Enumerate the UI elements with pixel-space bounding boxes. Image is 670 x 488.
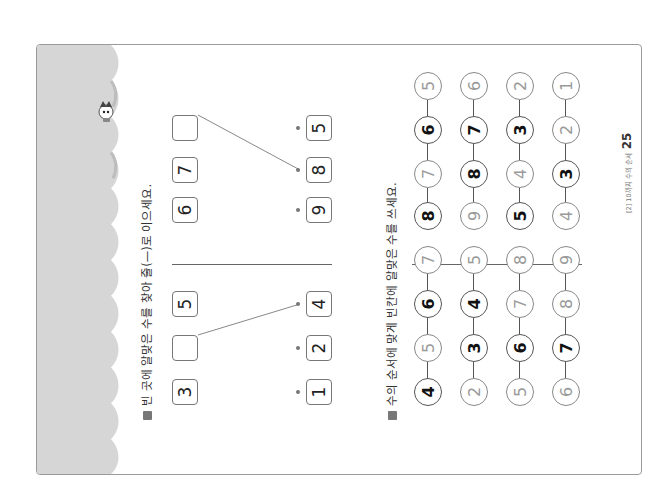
question-2-title: 수의 순서에 맞게 빈칸에 알맞은 수를 쓰세요.	[383, 182, 399, 420]
chain-link	[565, 188, 566, 202]
given-number-circle: 3	[506, 116, 534, 144]
connect-dot[interactable]	[296, 126, 300, 130]
group-separator	[172, 264, 332, 265]
number-box-top: 5	[172, 291, 198, 317]
chain-link	[565, 362, 566, 378]
number-box-bottom: 1	[306, 379, 332, 405]
chain-link	[519, 274, 520, 290]
given-number-circle: 6	[414, 290, 442, 318]
given-number-circle: 3	[460, 334, 488, 362]
answer-number-circle[interactable]: 7	[414, 160, 442, 188]
answer-number-circle[interactable]: 7	[414, 246, 442, 274]
answer-number-circle[interactable]: 9	[460, 202, 488, 230]
chain-link	[427, 100, 428, 116]
given-number-circle: 7	[552, 334, 580, 362]
connection-line-left	[198, 304, 300, 335]
answer-number-circle[interactable]: 4	[506, 160, 534, 188]
answer-number-circle[interactable]: 5	[414, 72, 442, 100]
connect-dot[interactable]	[296, 168, 300, 172]
page-number: 25	[620, 133, 634, 150]
chain-link	[427, 274, 428, 290]
given-number-circle: 3	[552, 160, 580, 188]
given-number-circle: 7	[460, 116, 488, 144]
number-box-bottom: 5	[306, 115, 332, 141]
worksheet-content: 빈 곳에 알맞은 수를 찾아 줄(—)로 이으세요. 3 5 6 7 1 2 4…	[36, 44, 642, 475]
chain-link	[565, 318, 566, 334]
chain-link	[473, 144, 474, 160]
answer-number-circle[interactable]: 2	[460, 378, 488, 406]
chain-link	[427, 362, 428, 378]
given-number-circle: 4	[414, 378, 442, 406]
chapter-label: [2] 10까지 수의 순서	[625, 153, 633, 213]
connect-dot[interactable]	[296, 302, 300, 306]
chain-link	[519, 362, 520, 378]
chain-link	[473, 274, 474, 290]
given-number-circle: 6	[414, 116, 442, 144]
page-footer: [2] 10까지 수의 순서25	[620, 133, 634, 213]
connect-dot[interactable]	[296, 346, 300, 350]
connect-dot[interactable]	[296, 208, 300, 212]
chain-link	[565, 100, 566, 116]
number-box-bottom: 2	[306, 335, 332, 361]
chain-link	[519, 144, 520, 160]
answer-number-circle[interactable]: 8	[506, 246, 534, 274]
answer-number-circle[interactable]: 5	[460, 246, 488, 274]
given-number-circle: 6	[506, 334, 534, 362]
chain-link	[519, 318, 520, 334]
given-number-circle: 8	[460, 160, 488, 188]
number-box-bottom: 9	[306, 197, 332, 223]
answer-number-circle[interactable]: 6	[552, 378, 580, 406]
given-number-circle: 5	[506, 202, 534, 230]
answer-number-circle[interactable]: 6	[460, 72, 488, 100]
chain-link	[519, 100, 520, 116]
chain-link	[427, 318, 428, 334]
given-number-circle: 4	[460, 290, 488, 318]
number-box-bottom: 4	[306, 291, 332, 317]
answer-number-circle[interactable]: 4	[552, 202, 580, 230]
connect-dot[interactable]	[296, 390, 300, 394]
answer-number-circle[interactable]: 7	[506, 290, 534, 318]
answer-number-circle[interactable]: 5	[506, 378, 534, 406]
blank-box-top[interactable]	[172, 335, 198, 361]
number-box-bottom: 8	[306, 157, 332, 183]
chain-link	[473, 100, 474, 116]
chain-link	[473, 362, 474, 378]
connection-line-right	[198, 115, 300, 170]
question-marker-icon	[388, 411, 397, 420]
answer-number-circle[interactable]: 5	[414, 334, 442, 362]
answer-number-circle[interactable]: 8	[552, 290, 580, 318]
number-box-top: 6	[172, 197, 198, 223]
answer-number-circle[interactable]: 1	[552, 72, 580, 100]
answer-number-circle[interactable]: 2	[552, 116, 580, 144]
chain-link	[565, 274, 566, 290]
answer-number-circle[interactable]: 2	[506, 72, 534, 100]
given-number-circle: 8	[414, 202, 442, 230]
blank-box-top[interactable]	[172, 115, 198, 141]
chain-link	[565, 144, 566, 160]
chain-link	[427, 188, 428, 202]
number-box-top: 3	[172, 379, 198, 405]
chain-link	[473, 318, 474, 334]
answer-number-circle[interactable]: 9	[552, 246, 580, 274]
chain-link	[519, 188, 520, 202]
chain-link	[427, 144, 428, 160]
chain-link	[473, 188, 474, 202]
number-box-top: 7	[172, 157, 198, 183]
